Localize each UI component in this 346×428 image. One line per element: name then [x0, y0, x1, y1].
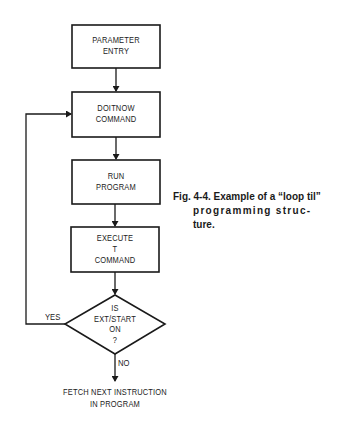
label-line: ?: [80, 335, 150, 346]
caption-line-3: ture.: [173, 218, 346, 232]
label-line: PROGRAM: [77, 182, 154, 193]
no-label: NO: [118, 357, 129, 369]
label-line: IS: [80, 303, 150, 314]
execute-t-command-label: EXECUTE T COMMAND: [76, 233, 153, 266]
label-line: FETCH NEXT INSTRUCTION: [58, 386, 172, 398]
label-line: COMMAND: [76, 255, 153, 266]
label-line: EXECUTE: [76, 233, 153, 244]
label-line: RUN: [77, 171, 154, 182]
label-line: ON: [80, 324, 150, 335]
parameter-entry-label: PARAMETER ENTRY: [77, 35, 154, 57]
label-line: ENTRY: [77, 46, 154, 57]
label-line: EXT/START: [80, 314, 150, 325]
label-line: PARAMETER: [77, 35, 154, 46]
label-line: IN PROGRAM: [58, 398, 172, 410]
doitnow-command-label: DOITNOW COMMAND: [77, 103, 154, 125]
figure-caption: Fig. 4-4. Example of a “loop til” progra…: [173, 190, 346, 232]
arrow-yes-loop: [26, 114, 71, 324]
run-program-label: RUN PROGRAM: [77, 171, 154, 193]
decision-label: IS EXT/START ON ?: [80, 303, 150, 345]
label-line: COMMAND: [77, 114, 154, 125]
caption-line-2: programming struc-: [173, 204, 346, 218]
caption-line-1: Fig. 4-4. Example of a “loop til”: [173, 191, 321, 202]
label-line: DOITNOW: [77, 103, 154, 114]
fetch-next-instruction-label: FETCH NEXT INSTRUCTION IN PROGRAM: [58, 386, 172, 410]
yes-label: YES: [45, 311, 60, 323]
label-line: T: [76, 244, 153, 255]
